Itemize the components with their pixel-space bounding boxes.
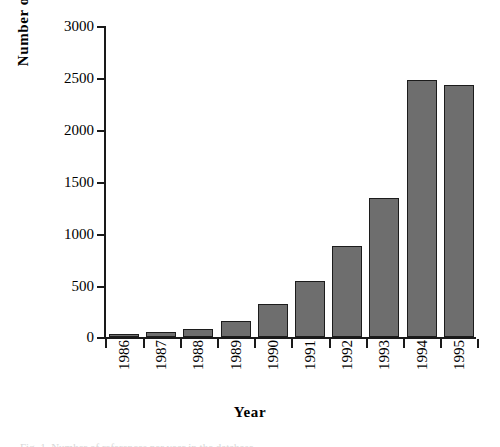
x-tick-mark-1987 bbox=[143, 339, 145, 348]
x-axis-title: Year bbox=[0, 404, 500, 421]
x-tick-label-1991: 1991 bbox=[301, 308, 319, 370]
y-tick-label-1000: 1000 bbox=[48, 227, 94, 242]
x-tick-label-1989: 1989 bbox=[227, 308, 245, 370]
y-tick-label-3000: 3000 bbox=[48, 19, 94, 34]
x-tick-mark-1994 bbox=[403, 339, 405, 348]
x-tick-mark-end bbox=[477, 339, 479, 348]
x-tick-mark-1986 bbox=[105, 339, 107, 348]
y-axis-tick-labels: 3000 2500 2000 1500 1000 500 0 bbox=[42, 0, 94, 447]
bar-1995 bbox=[444, 85, 474, 337]
y-tick-label-2000: 2000 bbox=[48, 123, 94, 138]
y-axis-title: Number of references bbox=[10, 0, 36, 106]
x-tick-label-1992: 1992 bbox=[338, 308, 356, 370]
bar-1994 bbox=[407, 80, 437, 337]
y-tick-label-500: 500 bbox=[48, 279, 94, 294]
y-tick-label-0: 0 bbox=[48, 330, 94, 345]
x-tick-mark-1990 bbox=[254, 339, 256, 348]
x-tick-mark-1988 bbox=[180, 339, 182, 348]
x-tick-mark-1995 bbox=[440, 339, 442, 348]
x-tick-label-1986: 1986 bbox=[115, 308, 133, 370]
bar-chart-figure: Number of references 3000 2500 2000 1500… bbox=[0, 0, 500, 447]
y-tick-mark-0 bbox=[97, 337, 105, 339]
y-tick-label-1500: 1500 bbox=[48, 175, 94, 190]
x-tick-label-1987: 1987 bbox=[152, 308, 170, 370]
x-tick-mark-1993 bbox=[366, 339, 368, 348]
x-tick-label-1988: 1988 bbox=[189, 308, 207, 370]
x-tick-label-1993: 1993 bbox=[375, 308, 393, 370]
plot-area bbox=[104, 26, 480, 337]
x-tick-label-1990: 1990 bbox=[264, 308, 282, 370]
x-tick-label-1995: 1995 bbox=[450, 308, 468, 370]
x-tick-label-1994: 1994 bbox=[413, 308, 431, 370]
figure-caption-cropped: Fig. 1. Number of references per year in… bbox=[20, 441, 480, 447]
y-tick-label-2500: 2500 bbox=[48, 71, 94, 86]
x-tick-mark-1989 bbox=[217, 339, 219, 348]
x-tick-mark-1992 bbox=[329, 339, 331, 348]
x-tick-mark-1991 bbox=[291, 339, 293, 348]
